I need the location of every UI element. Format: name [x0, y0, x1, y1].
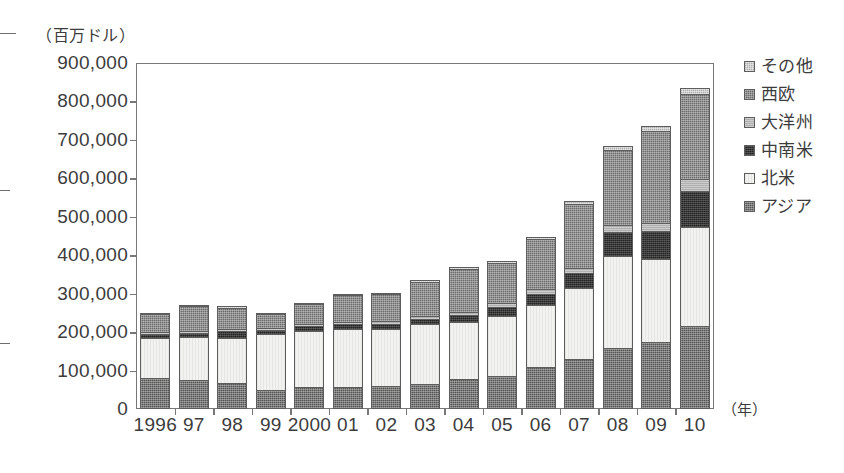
bar-segment-99-oceania[interactable]	[256, 328, 286, 330]
bar-segment-09-nam[interactable]	[641, 259, 671, 342]
bar-2000[interactable]	[294, 63, 324, 409]
bar-segment-01-latam[interactable]	[333, 324, 363, 329]
bar-segment-2000-latam[interactable]	[294, 326, 324, 331]
bar-07[interactable]	[564, 63, 594, 409]
bar-segment-03-nam[interactable]	[410, 324, 440, 384]
bar-segment-08-asia[interactable]	[603, 348, 633, 409]
bar-segment-05-nam[interactable]	[487, 316, 517, 377]
bar-segment-1996-oceania[interactable]	[140, 332, 170, 334]
bar-segment-1996-nam[interactable]	[140, 338, 170, 378]
legend-item-latam[interactable]: 中南米	[744, 136, 844, 164]
bar-segment-07-weur[interactable]	[564, 204, 594, 267]
bar-segment-03-oceania[interactable]	[410, 316, 440, 319]
bar-03[interactable]	[410, 63, 440, 409]
bar-segment-01-nam[interactable]	[333, 329, 363, 387]
bar-segment-05-other[interactable]	[487, 261, 517, 263]
bar-segment-97-nam[interactable]	[179, 337, 209, 380]
bar-segment-08-latam[interactable]	[603, 232, 633, 256]
legend-item-weur[interactable]: 西欧	[744, 80, 844, 108]
bar-segment-1996-latam[interactable]	[140, 334, 170, 338]
bar-segment-04-nam[interactable]	[449, 322, 479, 379]
bar-segment-2000-weur[interactable]	[294, 304, 324, 324]
bar-segment-07-other[interactable]	[564, 201, 594, 204]
bar-segment-03-other[interactable]	[410, 280, 440, 282]
bar-segment-98-oceania[interactable]	[217, 329, 247, 331]
bar-segment-06-weur[interactable]	[526, 239, 556, 289]
bar-segment-1996-weur[interactable]	[140, 314, 170, 332]
bar-segment-06-other[interactable]	[526, 237, 556, 239]
bar-segment-02-weur[interactable]	[371, 294, 401, 321]
bar-1996[interactable]	[140, 63, 170, 409]
bar-segment-99-asia[interactable]	[256, 390, 286, 409]
bar-segment-08-nam[interactable]	[603, 256, 633, 348]
bar-98[interactable]	[217, 63, 247, 409]
bar-segment-04-latam[interactable]	[449, 315, 479, 322]
bar-segment-06-oceania[interactable]	[526, 289, 556, 294]
bar-segment-05-latam[interactable]	[487, 307, 517, 315]
bar-segment-04-asia[interactable]	[449, 379, 479, 409]
bar-segment-97-weur[interactable]	[179, 306, 209, 331]
bar-segment-04-oceania[interactable]	[449, 312, 479, 315]
bar-segment-09-asia[interactable]	[641, 342, 671, 409]
bar-segment-01-asia[interactable]	[333, 387, 363, 409]
bar-segment-09-oceania[interactable]	[641, 223, 671, 231]
bar-segment-09-other[interactable]	[641, 126, 671, 131]
legend-item-oceania[interactable]: 大洋州	[744, 108, 844, 136]
bar-segment-07-nam[interactable]	[564, 288, 594, 359]
bar-segment-99-weur[interactable]	[256, 314, 286, 329]
bar-10[interactable]	[680, 63, 710, 409]
bar-segment-06-nam[interactable]	[526, 305, 556, 367]
bar-97[interactable]	[179, 63, 209, 409]
bar-segment-98-nam[interactable]	[217, 338, 247, 383]
bar-segment-03-asia[interactable]	[410, 384, 440, 409]
bar-segment-07-asia[interactable]	[564, 359, 594, 409]
bar-99[interactable]	[256, 63, 286, 409]
bar-segment-10-other[interactable]	[680, 88, 710, 93]
bar-segment-03-weur[interactable]	[410, 282, 440, 316]
bar-segment-1996-other[interactable]	[140, 313, 170, 314]
bar-segment-2000-nam[interactable]	[294, 331, 324, 387]
bar-segment-99-other[interactable]	[256, 313, 286, 314]
bar-segment-97-asia[interactable]	[179, 380, 209, 409]
bar-segment-05-asia[interactable]	[487, 376, 517, 409]
bar-segment-02-other[interactable]	[371, 293, 401, 295]
bar-05[interactable]	[487, 63, 517, 409]
bar-segment-2000-asia[interactable]	[294, 387, 324, 409]
bar-08[interactable]	[603, 63, 633, 409]
bar-segment-10-oceania[interactable]	[680, 179, 710, 191]
bar-segment-10-asia[interactable]	[680, 326, 710, 409]
bar-segment-97-latam[interactable]	[179, 333, 209, 337]
legend-item-other[interactable]: その他	[744, 52, 844, 80]
bar-segment-08-weur[interactable]	[603, 150, 633, 225]
bar-segment-03-latam[interactable]	[410, 319, 440, 325]
bar-segment-02-asia[interactable]	[371, 386, 401, 409]
bar-segment-09-latam[interactable]	[641, 231, 671, 259]
bar-segment-10-weur[interactable]	[680, 94, 710, 179]
bar-06[interactable]	[526, 63, 556, 409]
bar-segment-2000-other[interactable]	[294, 303, 324, 304]
bar-segment-06-latam[interactable]	[526, 294, 556, 306]
bar-segment-99-nam[interactable]	[256, 334, 286, 390]
bar-segment-01-oceania[interactable]	[333, 322, 363, 324]
bar-segment-97-oceania[interactable]	[179, 331, 209, 333]
bar-segment-02-nam[interactable]	[371, 329, 401, 386]
bar-segment-05-oceania[interactable]	[487, 303, 517, 307]
legend-item-asia[interactable]: アジア	[744, 192, 844, 220]
bar-segment-98-other[interactable]	[217, 306, 247, 307]
bar-segment-09-weur[interactable]	[641, 131, 671, 223]
bar-segment-08-oceania[interactable]	[603, 225, 633, 232]
bar-09[interactable]	[641, 63, 671, 409]
bar-segment-2000-oceania[interactable]	[294, 324, 324, 326]
legend-item-nam[interactable]: 北米	[744, 164, 844, 192]
bar-segment-98-latam[interactable]	[217, 331, 247, 338]
bar-segment-1996-asia[interactable]	[140, 378, 170, 409]
bar-02[interactable]	[371, 63, 401, 409]
bar-segment-01-other[interactable]	[333, 294, 363, 296]
bar-segment-02-latam[interactable]	[371, 324, 401, 329]
bar-segment-98-asia[interactable]	[217, 383, 247, 409]
bar-segment-04-other[interactable]	[449, 267, 479, 269]
bar-segment-05-weur[interactable]	[487, 263, 517, 303]
bar-segment-10-nam[interactable]	[680, 227, 710, 326]
bar-segment-04-weur[interactable]	[449, 269, 479, 312]
bar-segment-01-weur[interactable]	[333, 295, 363, 322]
